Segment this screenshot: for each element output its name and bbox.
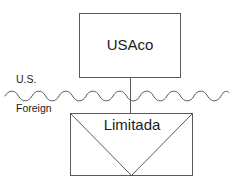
limitada-label: Limitada	[104, 116, 161, 133]
diagram-canvas: USAco U.S. Foreign Limitada	[0, 0, 233, 189]
entity-usaco[interactable]: USAco	[80, 14, 181, 78]
usaco-label: USAco	[107, 36, 154, 53]
ownership-structure-diagram: USAco U.S. Foreign Limitada	[0, 0, 233, 189]
entity-limitada[interactable]: Limitada	[71, 114, 193, 176]
jurisdiction-label-foreign: Foreign	[16, 102, 52, 114]
jurisdiction-label-us: U.S.	[16, 73, 36, 85]
national-border-wavy-line	[5, 91, 229, 101]
